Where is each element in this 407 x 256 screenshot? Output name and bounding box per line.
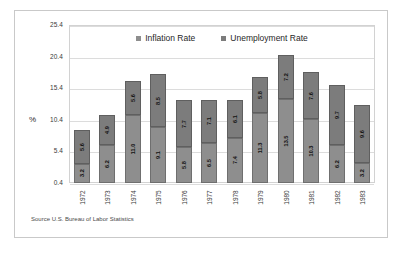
bar-column[interactable]: 7.75.8 — [176, 100, 192, 183]
y-tick-label: 0.4 — [35, 179, 63, 186]
bar-value-label: 6.2 — [334, 160, 340, 168]
bar-value-label: 10.3 — [308, 146, 314, 157]
bar-value-label: 9.1 — [155, 151, 161, 159]
x-tick-label: 1983 — [354, 185, 370, 201]
bar-column[interactable]: 8.59.1 — [150, 74, 166, 183]
bar-value-label: 7.6 — [308, 92, 314, 100]
bar-segment-unemployment[interactable]: 7.7 — [176, 100, 192, 147]
bar-segment-unemployment[interactable]: 7.1 — [201, 100, 217, 144]
bar-value-label: 7.7 — [181, 120, 187, 128]
x-tick-label: 1982 — [329, 185, 345, 201]
bar-value-label: 3.2 — [79, 169, 85, 177]
bar-value-label: 6.2 — [104, 160, 110, 168]
y-tick-label: 25.4 — [35, 21, 63, 28]
bar-segment-unemployment[interactable]: 7.6 — [303, 72, 319, 119]
x-tick-label: 1974 — [125, 185, 141, 201]
x-tick-label: 1981 — [303, 185, 319, 201]
bar-segment-inflation[interactable]: 6.2 — [329, 145, 345, 183]
bar-segment-inflation[interactable]: 11.3 — [252, 113, 268, 183]
bar-value-label: 5.8 — [257, 91, 263, 99]
bar-column[interactable]: 7.16.5 — [201, 100, 217, 183]
bar-column[interactable]: 7.610.3 — [303, 72, 319, 183]
y-tick-label: 15.4 — [35, 84, 63, 91]
bar-segment-inflation[interactable]: 13.5 — [278, 99, 294, 183]
bar-column[interactable]: 5.811.3 — [252, 77, 268, 183]
bar-segment-inflation[interactable]: 6.2 — [99, 145, 115, 183]
bar-value-label: 11.3 — [257, 143, 263, 154]
bar-value-label: 4.9 — [104, 126, 110, 134]
bar-segment-unemployment[interactable]: 4.9 — [99, 115, 115, 145]
bar-value-label: 6.1 — [232, 115, 238, 123]
x-tick-label: 1980 — [278, 185, 294, 201]
bar-value-label: 9.6 — [359, 130, 365, 138]
bar-segment-unemployment[interactable]: 6.1 — [227, 100, 243, 137]
bar-column[interactable]: 7.213.5 — [278, 55, 294, 183]
x-tick-label: 1972 — [74, 185, 90, 201]
x-tick-label: 1979 — [252, 185, 268, 201]
bar-segment-unemployment[interactable]: 8.5 — [150, 74, 166, 126]
bar-segment-inflation[interactable]: 9.1 — [150, 127, 166, 183]
y-tick-label: 10.4 — [35, 116, 63, 123]
bar-segment-unemployment[interactable]: 5.6 — [74, 130, 90, 164]
bar-segment-inflation[interactable]: 5.8 — [176, 147, 192, 183]
bar-segment-inflation[interactable]: 11.0 — [125, 115, 141, 183]
bar-segment-unemployment[interactable]: 7.2 — [278, 55, 294, 100]
bar-value-label: 3.2 — [359, 169, 365, 177]
bar-column[interactable]: 6.17.4 — [227, 100, 243, 183]
chart-container: % Inflation RateUnemployment Rate 5.63.2… — [14, 10, 388, 238]
source-note: Source U.S. Bureau of Labor Statistics — [31, 216, 134, 222]
bar-segment-inflation[interactable]: 10.3 — [303, 119, 319, 183]
bar-column[interactable]: 9.63.2 — [354, 105, 370, 183]
bar-segment-unemployment[interactable]: 9.6 — [354, 105, 370, 164]
bar-segment-inflation[interactable]: 3.2 — [74, 164, 90, 183]
bar-column[interactable]: 4.96.2 — [99, 115, 115, 183]
bar-value-label: 8.5 — [155, 97, 161, 105]
bar-segment-inflation[interactable]: 3.2 — [354, 163, 370, 183]
bar-value-label: 7.1 — [206, 117, 212, 125]
x-tick-label: 1975 — [150, 185, 166, 201]
bar-segment-unemployment[interactable]: 9.7 — [329, 85, 345, 145]
bar-value-label: 13.5 — [283, 136, 289, 147]
bar-segment-inflation[interactable]: 6.5 — [201, 143, 217, 183]
bar-value-label: 5.6 — [79, 143, 85, 151]
bars-group: 5.63.24.96.25.611.08.59.17.75.87.16.56.1… — [69, 25, 375, 183]
bar-value-label: 5.8 — [181, 161, 187, 169]
x-tick-label: 1973 — [99, 185, 115, 201]
bar-value-label: 7.2 — [283, 73, 289, 81]
bar-column[interactable]: 5.611.0 — [125, 81, 141, 183]
bar-segment-unemployment[interactable]: 5.6 — [125, 81, 141, 116]
x-tick-label: 1977 — [201, 185, 217, 201]
x-axis-ticks: 1972197319741975197619771978197919801981… — [69, 185, 375, 213]
bar-column[interactable]: 9.76.2 — [329, 85, 345, 183]
bar-segment-unemployment[interactable]: 5.8 — [252, 77, 268, 113]
x-tick-label: 1978 — [227, 185, 243, 201]
bar-column[interactable]: 5.63.2 — [74, 130, 90, 183]
bar-value-label: 7.4 — [232, 156, 238, 164]
bar-value-label: 9.7 — [334, 111, 340, 119]
bar-value-label: 5.6 — [130, 94, 136, 102]
x-tick-label: 1976 — [176, 185, 192, 201]
bar-segment-inflation[interactable]: 7.4 — [227, 138, 243, 183]
bar-value-label: 11.0 — [130, 144, 136, 155]
bar-value-label: 6.5 — [206, 159, 212, 167]
y-tick-label: 20.4 — [35, 53, 63, 60]
y-tick-label: 5.4 — [35, 147, 63, 154]
